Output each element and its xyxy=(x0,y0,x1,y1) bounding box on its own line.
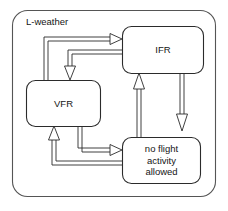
state-no-flight-activity-allowed-label-line-1: no flight xyxy=(145,143,179,154)
state-no-flight-activity-allowed-label-line-2: activity xyxy=(147,155,176,166)
diagram-canvas: L-weather xyxy=(0,0,228,211)
state-vfr[interactable]: VFR xyxy=(27,81,101,127)
state-ifr[interactable]: IFR xyxy=(123,27,204,74)
state-no-flight-activity-allowed[interactable]: no flight activity allowed xyxy=(123,138,201,184)
state-ifr-label: IFR xyxy=(155,44,170,55)
region-l-weather-label: L-weather xyxy=(26,16,68,27)
state-diagram: L-weather xyxy=(0,0,228,211)
state-vfr-label: VFR xyxy=(54,98,73,109)
state-no-flight-activity-allowed-label-line-3: allowed xyxy=(145,166,177,177)
